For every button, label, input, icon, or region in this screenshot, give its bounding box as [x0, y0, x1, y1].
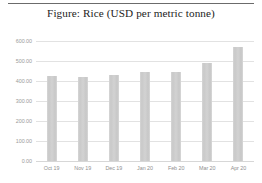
y-axis-tick-label: 0.00	[22, 158, 32, 164]
y-axis-tick-label: 300.00	[16, 98, 32, 104]
bar-slot	[67, 41, 98, 161]
x-axis-tick-label: Nov 19	[74, 165, 91, 171]
x-axis-tick-label: Mar 20	[199, 165, 215, 171]
bar-slot	[98, 41, 129, 161]
bar-slot	[36, 41, 67, 161]
bar-slot	[223, 41, 254, 161]
y-axis-tick-label: 200.00	[16, 118, 32, 124]
figure-top-rule	[8, 3, 254, 4]
x-axis-tick-label: Oct 19	[44, 165, 60, 171]
x-axis-tick-label: Feb 20	[168, 165, 184, 171]
bar-slot	[192, 41, 223, 161]
bar	[47, 76, 57, 161]
y-axis-tick-label: 500.00	[16, 58, 32, 64]
y-axis-tick-label: 100.00	[16, 138, 32, 144]
gridline	[36, 161, 254, 162]
y-axis-tick-label: 600.00	[16, 38, 32, 44]
bar	[78, 77, 88, 161]
x-axis-tick-label: Apr 20	[231, 165, 247, 171]
bar	[171, 72, 181, 161]
bar	[233, 47, 243, 161]
bar-slot	[161, 41, 192, 161]
chart-plot-area: 0.00100.00200.00300.00400.00500.00600.00…	[36, 41, 254, 161]
bar	[140, 72, 150, 161]
bar	[109, 75, 119, 161]
x-axis-tick-label: Dec 19	[105, 165, 122, 171]
bar	[202, 63, 212, 161]
bar-series	[36, 41, 254, 161]
bar-slot	[129, 41, 160, 161]
x-axis-tick-label: Jan 20	[137, 165, 153, 171]
figure-title: Figure: Rice (USD per metric tonne)	[0, 7, 262, 19]
y-axis-tick-label: 400.00	[16, 78, 32, 84]
figure-container: Figure: Rice (USD per metric tonne) 0.00…	[0, 0, 262, 183]
